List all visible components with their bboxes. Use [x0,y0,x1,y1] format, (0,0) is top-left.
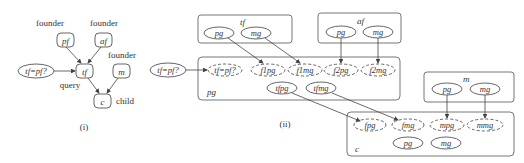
tf-role-label: query [60,80,81,90]
caption-ii: (ii) [280,119,291,129]
pf-role-label: founder [36,18,64,28]
c-dashed-fpg-label: fpg [365,120,376,130]
m-role-label: founder [108,50,136,60]
box-c-label: c [355,144,359,154]
pg-tfpg-label: tfpg [275,83,288,93]
pg-dashed-f2mg-label: f2mg [370,65,387,75]
pg-tfmg-label: tfmg [313,83,328,93]
panel-ii: tf pg mg af pg mg pg tf=pf? f1pg f1mg f2… [150,13,514,156]
m-pg-label: pg [442,84,452,94]
query-node-label: tf=pf? [25,66,47,76]
af-pg-label: pg [336,27,346,37]
box-pg-label: pg [206,87,217,97]
c-role-label: child [116,96,134,106]
tf-pg-label: pg [214,28,224,38]
pg-dashed-f2pg-label: f2pg [333,65,348,75]
box-m-label: m [463,74,470,84]
edge-m-c [107,78,118,93]
node-m-label: m [118,67,125,77]
c-dashed-mpg-label: mpg [440,120,455,130]
ii-query-node-label: tf=pf? [157,65,179,75]
edge-tfpg-f1pg [228,38,263,63]
pg-dashed-f1mg-label: f1mg [297,65,314,75]
c-pg-label: pg [403,138,413,148]
box-tf-label: tf [240,17,247,27]
edge-tfmg-fmg [332,93,398,120]
edge-pf-tf [66,47,81,63]
edge-tfpg-fpg [292,93,360,121]
diagram: founder founder founder pf af tf m c tf=… [0,0,524,163]
edge-tfmg-f1mg [265,38,300,63]
af-mg-label: mg [373,27,383,37]
c-dashed-fmg-label: fmg [402,120,415,130]
pg-dashed-tfpf-label: tf=pf? [214,65,236,75]
c-dashed-mmg-label: mmg [477,120,494,130]
box-pg [198,57,400,100]
node-c-label: c [101,97,105,107]
caption-i: (i) [80,122,89,132]
af-role-label: founder [90,18,118,28]
panel-i: founder founder founder pf af tf m c tf=… [18,18,136,132]
edge-tf-c [88,78,99,93]
box-af-label: af [357,16,366,26]
edge-af-tf [88,47,101,63]
tf-mg-label: mg [251,28,261,38]
c-mg-label: mg [441,138,451,148]
m-mg-label: mg [480,84,490,94]
pg-dashed-f1pg-label: f1pg [260,65,275,75]
